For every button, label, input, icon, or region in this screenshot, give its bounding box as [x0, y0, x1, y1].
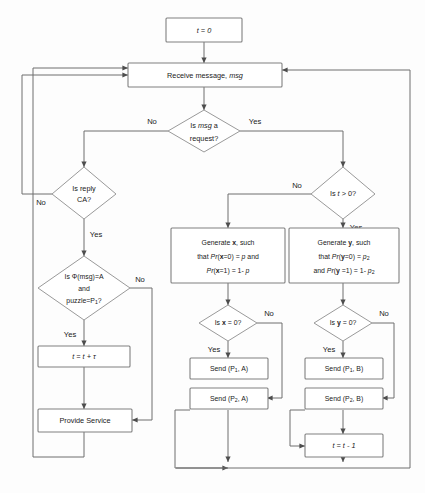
node-is-phi-line2: and	[78, 285, 90, 292]
node-gen-y-line3: and Pr(y =1) = 1- p2	[313, 267, 374, 275]
node-send-p1-a-label: Send (P1, A)	[210, 365, 248, 373]
edge-label-request-no: No	[147, 117, 157, 126]
node-send-p2-a-label: Send (P2, A)	[210, 395, 248, 403]
edge-isphi-no-to-provideservice	[130, 288, 152, 420]
edge-isrequest-no-to-isreplyca	[84, 131, 168, 167]
node-gen-y-line1: Generate y, such	[318, 239, 371, 247]
nodes-layer: t = 0 Receive message, msg Is msg a requ…	[36, 18, 399, 457]
node-t-minus-label: t = t - 1	[333, 441, 356, 450]
edge-sendp1b-to-tminus	[290, 410, 305, 446]
edge-label-y-0-no: No	[379, 309, 389, 318]
node-is-request-diamond[interactable]	[168, 110, 240, 152]
edge-isrequest-yes-to-istgt0	[240, 131, 343, 167]
node-is-reply-ca-diamond[interactable]	[52, 167, 116, 219]
edge-label-request-yes: Yes	[249, 117, 262, 126]
flowchart-diagram: t = 0 Receive message, msg Is msg a requ…	[0, 0, 425, 493]
node-gen-x-line3: Pr(x=1) = 1- p	[207, 267, 250, 275]
node-is-x-0-label: Is x = 0?	[215, 319, 242, 326]
node-gen-x-line1: Generate x, such	[202, 239, 255, 246]
node-send-p2-b-label: Send (P2, B)	[325, 395, 364, 403]
edge-istgt0-no-to-genx	[228, 194, 311, 228]
node-is-phi-line1: Is Φ(msg)=A	[65, 273, 104, 281]
node-is-phi-line3: puzzle=P1?	[66, 297, 101, 305]
edge-label-reply-ca-yes: Yes	[90, 230, 103, 239]
node-is-t-gt-0-label: Is t > 0?	[330, 189, 356, 198]
node-is-request-label-line2: request?	[190, 134, 218, 143]
node-init-label: t = 0	[197, 26, 211, 35]
edge-label-phi-no: No	[135, 275, 145, 284]
node-send-p1-b-label: Send (P1, B)	[325, 365, 364, 373]
node-gen-x-line2: that Pr(x=0) = p and	[197, 253, 259, 261]
node-is-reply-ca-line2: CA?	[77, 195, 91, 204]
edge-label-phi-yes: Yes	[64, 330, 77, 339]
edge-label-y-0-yes: Yes	[323, 345, 336, 354]
node-is-y-0-label: Is y = 0?	[330, 319, 357, 327]
edge-label-x-0-yes: Yes	[208, 345, 221, 354]
node-provide-service-label: Provide Service	[59, 416, 110, 425]
node-is-reply-ca-line1: Is reply	[72, 184, 96, 193]
edge-label-t-gt-0-no: No	[292, 181, 302, 190]
node-receive-label: Receive message, msg	[167, 71, 243, 80]
edge-label-x-0-no: No	[264, 309, 274, 318]
node-is-request-label-line1: Is msg a	[190, 121, 219, 130]
node-gen-y-line2: that Pr(y=0) = p2	[318, 253, 369, 261]
edge-sendp1a-to-bottomrail	[175, 410, 228, 468]
node-t-plus-label: t = t + τ	[72, 352, 97, 361]
flowchart-canvas: t = 0 Receive message, msg Is msg a requ…	[0, 0, 425, 493]
edge-label-reply-ca-no: No	[36, 198, 46, 207]
